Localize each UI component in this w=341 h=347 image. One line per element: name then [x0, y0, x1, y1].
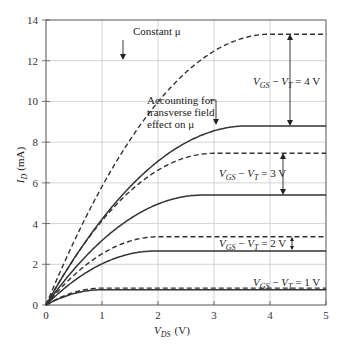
x-tick-label: 0 [43, 309, 49, 321]
transverse-label-line2: transverse field [147, 106, 215, 118]
x-tick-label: 2 [155, 309, 161, 321]
transverse-label-line3: effect on μ [147, 118, 194, 130]
y-tick-label: 2 [33, 258, 39, 270]
y-tick-label: 8 [33, 136, 39, 148]
vov3-label: VGS − VT = 3 V [219, 167, 286, 182]
y-tick-label: 0 [33, 299, 39, 311]
vov2-label: VGS − VT = 2 V [219, 237, 286, 252]
transverse-field-curve [46, 290, 326, 305]
y-tick-label: 14 [27, 14, 39, 26]
grid [46, 20, 326, 305]
vov4-label: VGS − VT = 4 V [253, 75, 320, 90]
x-tick-label: 5 [323, 309, 329, 321]
y-tick-label: 4 [33, 218, 39, 230]
y-axis-title: ID(mA) [14, 147, 29, 185]
x-tick-label: 3 [211, 309, 217, 321]
y-tick-label: 12 [27, 55, 38, 67]
chart: 01234502468101214 Constant μ Accounting … [0, 0, 341, 347]
plot-frame [46, 20, 326, 305]
x-tick-label: 1 [99, 309, 105, 321]
x-axis-title: VDS(V) [154, 324, 190, 339]
x-tick-label: 4 [267, 309, 273, 321]
transverse-label-line1: Accounting for [147, 94, 214, 106]
y-tick-label: 10 [27, 95, 39, 107]
constant-mu-label: Constant μ [133, 25, 181, 37]
y-tick-label: 6 [33, 177, 39, 189]
